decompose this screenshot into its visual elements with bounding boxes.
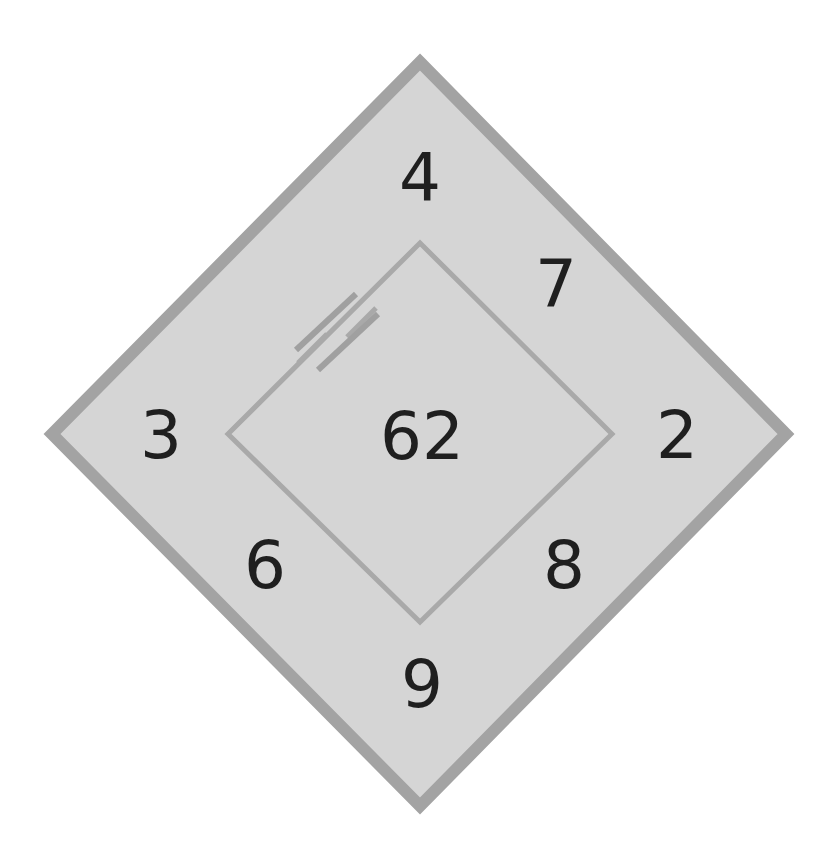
figure-canvas: 4 7 2 8 9 6 3 62 (0, 0, 835, 843)
label-lower-right: 8 (543, 533, 585, 599)
label-left: 3 (140, 403, 182, 469)
label-center: 62 (380, 404, 464, 470)
label-top: 4 (399, 145, 441, 211)
label-upper-right: 7 (535, 252, 577, 318)
label-lower-left: 6 (244, 533, 286, 599)
label-right: 2 (656, 403, 698, 469)
label-bottom: 9 (401, 652, 443, 718)
